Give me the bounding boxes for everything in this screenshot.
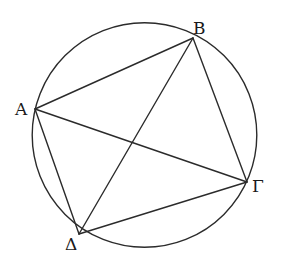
side-BG bbox=[193, 38, 247, 182]
vertex-label-D: Δ bbox=[65, 234, 77, 254]
cyclic-quadrilateral-diagram: Α Β Γ Δ bbox=[0, 0, 282, 269]
vertex-label-G: Γ bbox=[252, 176, 264, 196]
vertex-label-B: Β bbox=[193, 18, 206, 38]
side-DA bbox=[35, 109, 79, 234]
vertex-label-A: Α bbox=[14, 99, 28, 119]
diagonal-AG bbox=[35, 109, 247, 182]
side-AB bbox=[35, 38, 193, 109]
